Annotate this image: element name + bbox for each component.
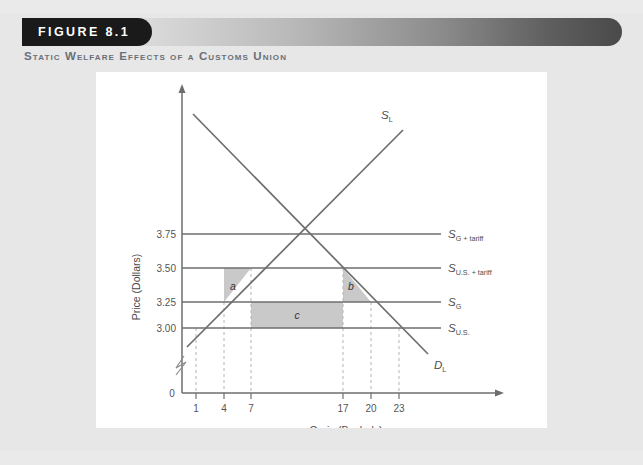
origin-label: 0 [169, 388, 175, 399]
curve-label-sg-tariff: SG + tariff [448, 228, 483, 243]
figure-number-label: FIGURE 8.1 [38, 25, 130, 39]
curve-label-sus: SU.S. [448, 322, 470, 337]
y-axis-arrow [179, 84, 186, 93]
x-tick-label-4: 4 [221, 403, 227, 414]
curve-label-dl-sub: L [442, 365, 446, 374]
y-tick-label-325: 3.25 [157, 297, 177, 308]
economics-chart: 1 4 7 17 20 23 0 3.75 3.50 3.25 3.00 Pri… [96, 72, 547, 428]
y-axis-title: Price (Dollars) [130, 254, 142, 321]
axes [182, 90, 498, 393]
area-label-a: a [230, 280, 236, 292]
figure-page: FIGURE 8.1 Static Welfare Effects of a C… [0, 0, 643, 465]
x-tick-label-17: 17 [337, 403, 349, 414]
y-axis-break-icon [176, 356, 186, 375]
curve-label-sus-tariff-tail: + tariff [470, 268, 492, 277]
area-label-c: c [294, 309, 300, 321]
x-axis-ticks [196, 393, 399, 399]
x-tick-label-23: 23 [393, 403, 405, 414]
y-tick-label-375: 3.75 [157, 229, 177, 240]
x-tick-label-20: 20 [365, 403, 377, 414]
curve-label-sl: SL [381, 109, 393, 124]
x-axis-arrow [495, 390, 504, 397]
x-tick-label-7: 7 [248, 403, 254, 414]
curve-label-sg-sub: G [456, 302, 462, 311]
curve-label-dl-main: D [434, 359, 442, 371]
y-tick-label-300: 3.00 [157, 323, 177, 334]
curve-label-sg-tariff-tail: + tariff [461, 234, 483, 243]
curve-label-sus-tariff: SU.S. + tariff [448, 262, 492, 277]
curve-label-sg: SG [448, 296, 462, 311]
area-label-b: b [348, 280, 354, 292]
curve-label-sus-sub: U.S. [456, 328, 470, 337]
chart-panel: 1 4 7 17 20 23 0 3.75 3.50 3.25 3.00 Pri… [96, 72, 547, 428]
curve-label-sl-sub: L [389, 115, 393, 124]
x-tick-label-1: 1 [193, 403, 199, 414]
x-axis-title: Grain (Bushels) [310, 424, 383, 428]
figure-title: Static Welfare Effects of a Customs Unio… [24, 50, 287, 62]
curve-label-sus-tariff-sub: U.S. [456, 268, 470, 277]
curve-label-dl: DL [434, 359, 446, 374]
y-tick-label-350: 3.50 [157, 263, 177, 274]
figure-number-badge: FIGURE 8.1 [22, 18, 152, 46]
